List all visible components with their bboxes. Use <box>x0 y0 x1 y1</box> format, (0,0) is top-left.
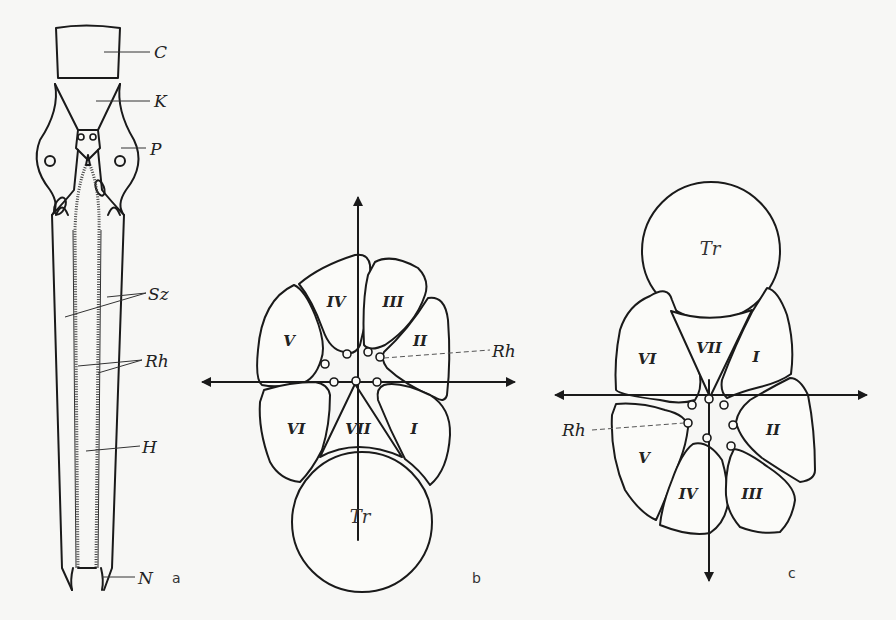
panel-label-c: c <box>788 565 796 581</box>
cell-label-ii: II <box>412 332 428 350</box>
cell-label-iii: III <box>740 485 763 503</box>
rh-rod-left <box>75 165 86 568</box>
rh-label-c: Rh <box>561 420 586 440</box>
figure-canvas: C K P Sz Rh H N a IV III <box>0 0 896 620</box>
label-k: K <box>153 91 168 111</box>
panel-label-b: b <box>472 570 481 586</box>
cell-label-ii: II <box>765 421 781 439</box>
panel-b: IV III II V VI VII I Tr Rh b <box>203 198 516 592</box>
label-h: H <box>141 437 158 457</box>
cell-label-i: I <box>751 348 760 366</box>
trunk-label-b: Tr <box>350 506 372 527</box>
label-p: P <box>149 139 162 159</box>
panel-a: C K P Sz Rh H N a <box>37 26 181 591</box>
cell-label-vii: VII <box>696 339 723 357</box>
label-sz: Sz <box>148 284 170 304</box>
panel-label-a: a <box>172 570 181 586</box>
label-rh: Rh <box>144 351 169 371</box>
label-n: N <box>137 568 154 588</box>
label-c: C <box>154 42 167 62</box>
cell-label-i: I <box>409 420 418 438</box>
lobe-left <box>37 84 78 215</box>
cell-label-vi: VI <box>638 350 658 368</box>
collar-k-shape <box>55 84 120 130</box>
cell-label-vii: VII <box>345 420 372 438</box>
trunk-label-c: Tr <box>700 238 722 259</box>
panel-c: Tr VI VII I II V IV III Rh c <box>556 182 866 581</box>
cell-label-vi: VI <box>287 420 307 438</box>
rh-label-b: Rh <box>491 341 516 361</box>
cell-label-iv: IV <box>678 485 699 503</box>
cell-label-iv: IV <box>326 293 347 311</box>
body-outline <box>52 215 124 590</box>
cell-label-v: V <box>638 449 651 467</box>
cell-label-v: V <box>283 332 296 350</box>
cell-label-iii: III <box>381 293 404 311</box>
rh-rod-right <box>90 165 99 568</box>
